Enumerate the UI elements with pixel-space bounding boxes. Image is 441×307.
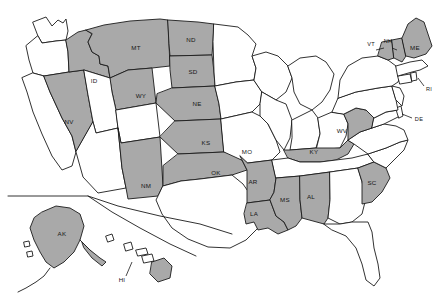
label-MO: MO [242, 148, 252, 155]
label-KS: KS [202, 139, 211, 146]
leader-line-RI [418, 78, 424, 86]
label-NE: NE [192, 100, 201, 107]
label-SD: SD [188, 68, 197, 75]
label-SC: SC [367, 179, 376, 186]
state-NE[interactable] [156, 86, 221, 121]
label-ID: ID [91, 77, 98, 84]
label-ME: ME [410, 44, 420, 51]
label-NM: NM [141, 182, 151, 189]
label-LA: LA [250, 210, 259, 217]
hawaii-leader-line [126, 262, 132, 276]
state-MN[interactable] [213, 24, 256, 86]
alaska-island-1 [24, 241, 30, 247]
label-RI: RI [426, 86, 432, 92]
label-DE: DE [415, 116, 423, 122]
state-KS[interactable] [160, 119, 224, 154]
label-AL: AL [307, 193, 315, 200]
label-KY: KY [310, 148, 319, 155]
alaska-island-2 [27, 251, 33, 257]
state-ME[interactable] [402, 18, 432, 58]
label-OK: OK [211, 169, 221, 176]
label-VT: VT [367, 41, 375, 47]
label-AK: AK [58, 230, 67, 237]
hawaii-island-kauai [106, 234, 114, 242]
label-NH: NH [384, 38, 393, 44]
hawaii-island-oahu [124, 242, 133, 251]
state-MI[interactable] [288, 56, 334, 110]
label-AR: AR [248, 178, 257, 185]
label-WV: WV [337, 127, 348, 134]
leader-line-DE [402, 114, 412, 118]
state-CO[interactable] [116, 103, 160, 143]
alaska-panhandle-fill[interactable] [82, 242, 106, 266]
label-WY: WY [136, 92, 146, 99]
label-NV: NV [64, 118, 74, 125]
state-FL[interactable] [324, 222, 380, 286]
label-HI: HI [119, 276, 126, 283]
label-MT: MT [131, 44, 140, 51]
us-map-container: MT ND SD ID WY NV NE KS MO NM OK AR LA M… [0, 0, 441, 307]
state-HI[interactable] [150, 258, 172, 282]
state-OR[interactable] [26, 36, 69, 76]
state-RI[interactable] [411, 72, 417, 81]
state-IN[interactable] [290, 110, 320, 150]
us-map-svg: MT ND SD ID WY NV NE KS MO NM OK AR LA M… [0, 0, 441, 307]
label-MS: MS [280, 196, 290, 203]
state-AK[interactable] [30, 206, 84, 268]
alaska-aleutian-chain [18, 268, 50, 292]
label-ND: ND [186, 36, 196, 43]
